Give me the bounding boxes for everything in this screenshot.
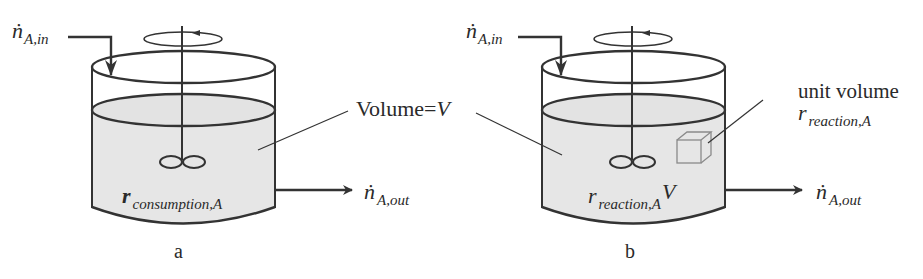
unit-volume-label: unit volume [798, 79, 899, 103]
inflow-pipe [68, 37, 111, 75]
panel-a-caption: a [174, 240, 183, 262]
rotation-arrow-icon [642, 30, 650, 36]
tank-rim [542, 51, 725, 83]
outflow-label-a: ṅA,out [364, 179, 410, 208]
volume-label: Volume=V [356, 96, 452, 121]
rotation-arrow-icon [192, 30, 200, 36]
reactor-diagram: ṅA,in rconsumption,A ṅA,out a Volume=V [0, 0, 923, 279]
liquid-surface [542, 94, 725, 126]
liquid-surface [92, 94, 275, 126]
tank-rim [92, 51, 275, 83]
unit-volume-rate-label: rreaction,A [798, 100, 872, 129]
inflow-label-a: ṅA,in [12, 18, 49, 47]
panel-b: ṅA,in unit volume rreaction,A rreaction,… [466, 18, 899, 262]
panel-a: ṅA,in rconsumption,A ṅA,out a [12, 18, 410, 262]
outflow-label-b: ṅA,out [816, 179, 862, 208]
inflow-pipe [518, 37, 561, 75]
panel-b-caption: b [625, 240, 635, 262]
inflow-label-b: ṅA,in [466, 18, 503, 47]
